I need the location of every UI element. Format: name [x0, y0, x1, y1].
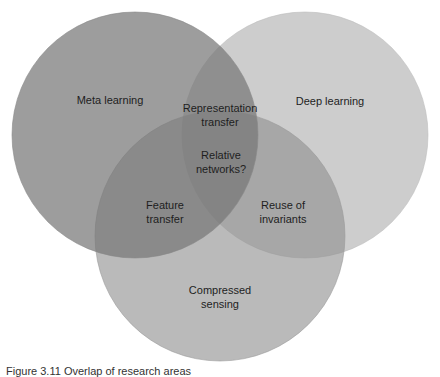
label-meta-learning: Meta learning: [77, 93, 144, 107]
label-compressed-sensing: Compressed sensing: [189, 283, 251, 311]
circle-meta-learning: [12, 12, 258, 258]
label-relative-networks: Relative networks?: [196, 148, 246, 176]
label-representation-transfer: Representation transfer: [183, 101, 258, 129]
label-feature-transfer: Feature transfer: [146, 198, 184, 226]
figure-caption: Figure 3.11 Overlap of research areas: [6, 365, 191, 377]
label-deep-learning: Deep learning: [296, 94, 365, 108]
label-reuse-of-invariants: Reuse of invariants: [259, 198, 306, 226]
